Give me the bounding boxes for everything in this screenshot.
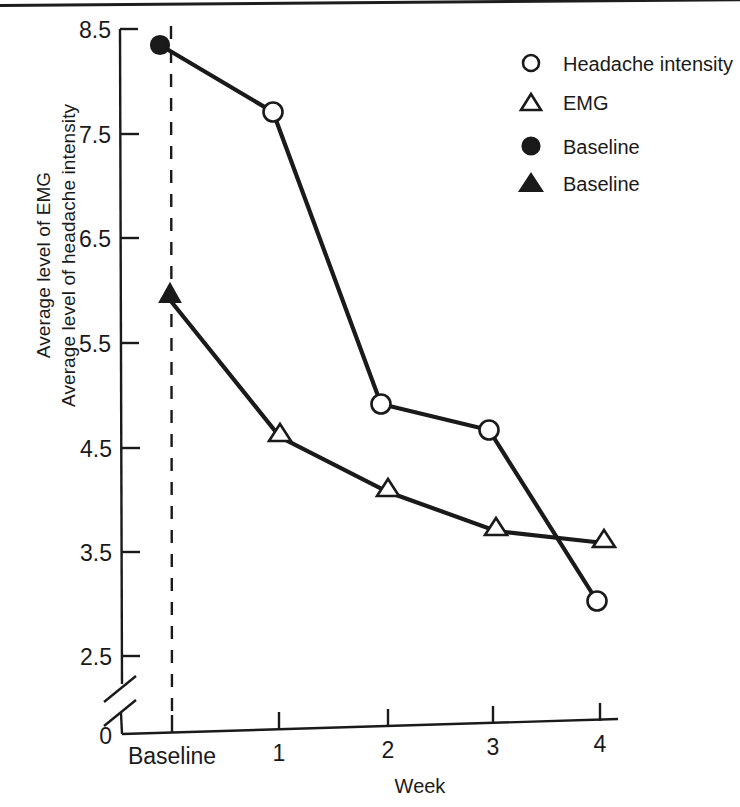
y-axis: 8.5 7.5 6.5 5.5 4.5 3.5 2.5 0 [79,17,140,749]
chart-figure: Average level of EMG Average level of he… [0,0,740,807]
series-emg [160,284,615,547]
x-axis-title: Week [395,775,447,797]
series-headache-intensity [151,36,607,611]
y-tick-label-0: 0 [99,723,112,749]
y-tick-label-6.5: 6.5 [79,226,111,252]
legend-item-emg[interactable]: EMG [521,92,609,114]
baseline-divider-dashed-line [171,26,172,718]
x-axis-spine [122,719,618,734]
legend-label-baseline-emg: Baseline [563,173,640,195]
x-axis: Baseline 1 2 3 4 Week [122,703,618,797]
y-tick-label-2.5: 2.5 [80,644,112,670]
legend-label-headache-intensity: Headache intensity [563,53,733,75]
headache-point-week-2 [372,395,391,414]
emg-point-week-4 [593,530,615,547]
legend-item-baseline-triangle[interactable]: Baseline [520,173,640,195]
x-tick-label-2: 2 [382,737,395,763]
legend-item-headache-intensity[interactable]: Headache intensity [523,53,733,75]
y-axis-spine [120,29,122,684]
headache-point-week-1 [264,103,283,122]
chart-legend: Headache intensity EMG Baseline Baseline [520,53,733,195]
x-tick-label-3: 3 [487,734,500,760]
x-tick-label-4: 4 [594,731,607,757]
legend-filled-triangle-icon [520,174,542,191]
y-axis-spine-lower [121,713,122,734]
legend-label-baseline-headache: Baseline [563,136,640,158]
x-tick-label-1: 1 [273,740,286,766]
legend-open-triangle-icon [521,94,541,110]
legend-item-baseline-circle[interactable]: Baseline [523,136,640,158]
legend-filled-circle-icon [523,138,540,155]
plot-area: 8.5 7.5 6.5 5.5 4.5 3.5 2.5 0 Baseline 1… [0,0,740,807]
legend-label-emg: EMG [563,92,609,114]
headache-point-week-3 [480,421,499,440]
y-tick-label-4.5: 4.5 [80,436,112,462]
headache-point-week-4 [588,592,607,611]
y-tick-label-8.5: 8.5 [79,17,111,43]
y-tick-label-7.5: 7.5 [79,122,111,148]
y-tick-label-3.5: 3.5 [80,540,112,566]
emg-baseline-marker [160,284,180,302]
x-tick-label-baseline: Baseline [128,743,216,769]
y-axis-break-slash-upper [104,676,136,702]
legend-open-circle-icon [523,55,539,71]
headache-baseline-marker [151,36,169,54]
y-tick-label-5.5: 5.5 [79,331,111,357]
headache-intensity-line [160,45,597,601]
